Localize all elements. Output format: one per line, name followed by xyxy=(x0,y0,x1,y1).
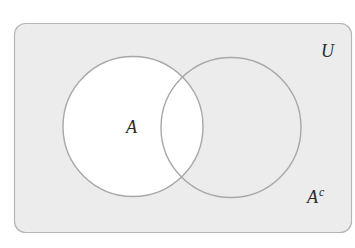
universe-label: U xyxy=(321,42,334,60)
venn-diagram: U A Ac xyxy=(0,0,355,248)
venn-svg xyxy=(0,0,355,248)
complement-label: Ac xyxy=(307,188,324,206)
complement-superscript: c xyxy=(319,185,324,199)
complement-base: A xyxy=(307,187,318,207)
set-a-label: A xyxy=(126,118,137,136)
